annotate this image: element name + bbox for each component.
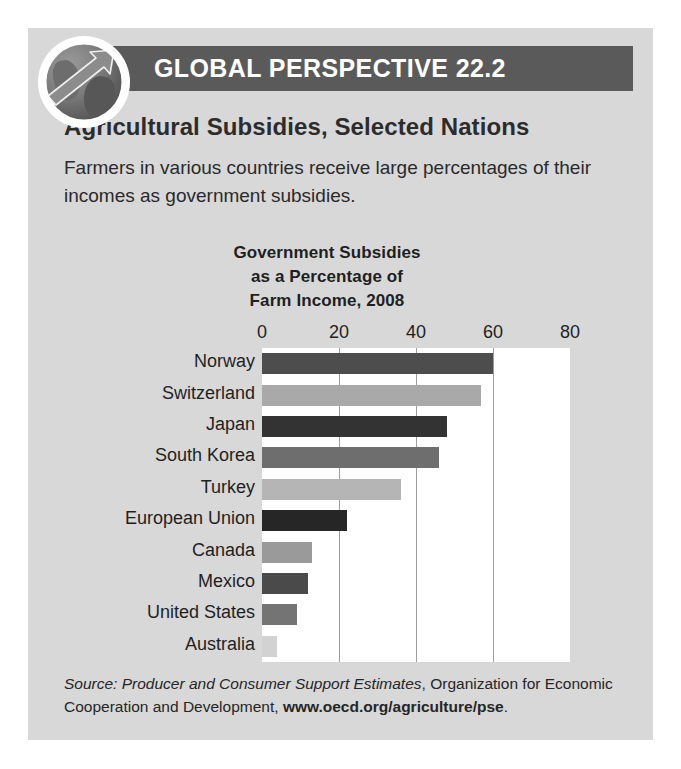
x-axis-tick-label-20: 20: [329, 322, 349, 343]
category-label-australia: Australia: [185, 634, 255, 655]
plot-wrapper: 020406080NorwaySwitzerlandJapanSouth Kor…: [262, 348, 570, 662]
category-label-mexico: Mexico: [198, 571, 255, 592]
intro-paragraph: Farmers in various countries receive lar…: [64, 154, 609, 209]
bar-norway: [262, 353, 493, 374]
plot-area: [262, 348, 570, 662]
category-label-south-korea: South Korea: [155, 445, 255, 466]
gridline-60: [493, 348, 494, 662]
category-label-japan: Japan: [206, 414, 255, 435]
category-label-switzerland: Switzerland: [162, 383, 255, 404]
banner-label: GLOBAL PERSPECTIVE 22.2: [154, 54, 506, 83]
category-label-canada: Canada: [192, 540, 255, 561]
bar-south-korea: [262, 447, 439, 468]
x-axis-tick-label-0: 0: [257, 322, 267, 343]
chart-title-line-2: Farm Income, 2008: [28, 289, 626, 313]
bar-european-union: [262, 510, 347, 531]
bar-mexico: [262, 573, 308, 594]
bar-japan: [262, 416, 447, 437]
source-publication: Producer and Consumer Support Estimates: [122, 675, 422, 692]
source-label: Source:: [64, 675, 117, 692]
category-label-norway: Norway: [194, 351, 255, 372]
bar-united-states: [262, 604, 297, 625]
chart-title: Government Subsidiesas a Percentage ofFa…: [28, 241, 626, 313]
category-label-european-union: European Union: [125, 508, 255, 529]
chart-title-line-0: Government Subsidies: [28, 241, 626, 265]
bar-canada: [262, 542, 312, 563]
bar-turkey: [262, 479, 401, 500]
global-perspective-card: GLOBAL PERSPECTIVE 22.2 Agricultural Sub…: [28, 28, 653, 740]
category-label-united-states: United States: [147, 602, 255, 623]
page-title: Agricultural Subsidies, Selected Nations: [64, 113, 624, 141]
globe-arrow-icon: [38, 36, 130, 128]
banner-title-bar: GLOBAL PERSPECTIVE 22.2: [112, 46, 633, 91]
x-axis-tick-label-40: 40: [406, 322, 426, 343]
globe-arrow-overlay: [38, 36, 130, 128]
x-axis-tick-label-60: 60: [483, 322, 503, 343]
bar-switzerland: [262, 385, 481, 406]
category-label-turkey: Turkey: [201, 477, 255, 498]
source-url[interactable]: www.oecd.org/agriculture/pse: [283, 698, 504, 715]
chart-region: Government Subsidiesas a Percentage ofFa…: [28, 241, 653, 641]
chart-title-line-1: as a Percentage of: [28, 265, 626, 289]
bar-australia: [262, 636, 277, 657]
x-axis-tick-label-80: 80: [560, 322, 580, 343]
source-period: .: [504, 698, 508, 715]
source-note: Source: Producer and Consumer Support Es…: [64, 672, 634, 719]
